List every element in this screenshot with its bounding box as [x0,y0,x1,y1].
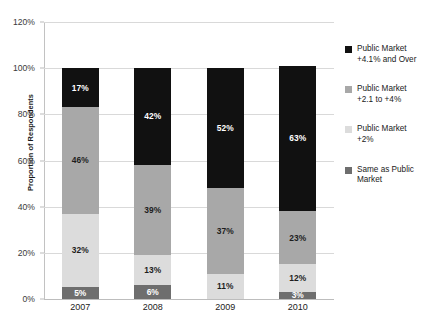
chart-legend: Public Market +4.1% and OverPublic Marke… [345,44,433,205]
bar-segment-value-label: 17% [72,84,89,92]
bar-segment[interactable]: 17% [62,68,99,107]
legend-label: Public Market +2.1 to +4% [357,84,407,105]
x-axis-tick-label: 2007 [70,302,90,312]
bar-segment-value-label: 11% [217,282,233,290]
legend-label: Same as Public Market [357,165,414,186]
bar-segment[interactable]: 39% [134,165,171,255]
y-axis-tick-label: 0% [23,294,35,304]
bar-segment[interactable]: 42% [134,68,171,165]
bar-segment[interactable]: 52% [207,68,244,188]
bar-segment[interactable]: 13% [134,255,171,285]
bar-segment-value-label: 6% [147,288,159,296]
x-axis-tick-label: 2008 [143,302,163,312]
bar-segment-value-label: 12% [289,274,306,282]
bar-segment-value-label: 63% [289,134,306,142]
y-axis-tick-label: 40% [18,202,35,212]
legend-item[interactable]: Public Market +2% [345,124,433,145]
x-axis-tick-label: 2010 [288,302,308,312]
y-axis-tick-label: 120% [13,17,35,27]
bar-stack: 5%32%46%17% [62,68,99,299]
bar-stack: 6%13%39%42% [134,68,171,299]
y-axis-tick-label: 60% [18,156,35,166]
bar-segment[interactable]: 3% [279,292,316,299]
bar-segment[interactable]: 37% [207,188,244,273]
bar-segment[interactable]: 23% [279,211,316,264]
bar-segment-value-label: 3% [292,292,304,299]
legend-label: Public Market +2% [357,124,407,145]
bar-segment[interactable]: 32% [62,214,99,288]
bar-segment-value-label: 32% [72,246,89,254]
bar-segment-value-label: 52% [217,124,234,132]
legend-item[interactable]: Public Market +2.1 to +4% [345,84,433,105]
bar-segment-value-label: 39% [144,206,161,214]
bar-segment[interactable]: 46% [62,107,99,213]
legend-swatch-icon [345,167,352,174]
bar-segment-value-label: 42% [144,112,161,120]
bar-series-container: 5%32%46%17%6%13%39%42%11%37%52%3%12%23%6… [44,22,334,299]
bar-segment-value-label: 37% [217,227,234,235]
x-axis-tick-labels: 2007200820092010 [44,302,334,320]
bar-segment-value-label: 13% [144,266,161,274]
y-axis-tick-label: 20% [18,248,35,258]
bar-segment-value-label: 23% [289,234,306,242]
plot-area: 5%32%46%17%6%13%39%42%11%37%52%3%12%23%6… [44,22,334,299]
y-axis-tick-label: 80% [18,109,35,119]
bar-segment-value-label: 5% [74,289,86,297]
bar-stack: 11%37%52% [207,68,244,299]
bar-segment[interactable]: 5% [62,287,99,299]
bar-segment[interactable]: 12% [279,264,316,292]
legend-swatch-icon [345,126,352,133]
legend-swatch-icon [345,46,352,53]
legend-label: Public Market +4.1% and Over [357,44,416,65]
bar-segment-value-label: 46% [72,156,89,164]
bar-segment[interactable]: 63% [279,66,316,211]
y-axis-tick-label: 100% [13,63,35,73]
x-axis-tick-label: 2009 [215,302,235,312]
bar-segment[interactable]: 11% [207,274,244,299]
legend-swatch-icon [345,86,352,93]
y-axis-tick-labels: 0%20%40%60%80%100%120% [0,0,40,321]
bar-stack: 3%12%23%63% [279,66,316,299]
legend-item[interactable]: Same as Public Market [345,165,433,186]
legend-item[interactable]: Public Market +4.1% and Over [345,44,433,65]
gridline [44,299,334,300]
stacked-bar-chart: Proportion of Respondents 0%20%40%60%80%… [0,0,433,321]
bar-segment[interactable]: 6% [134,285,171,299]
